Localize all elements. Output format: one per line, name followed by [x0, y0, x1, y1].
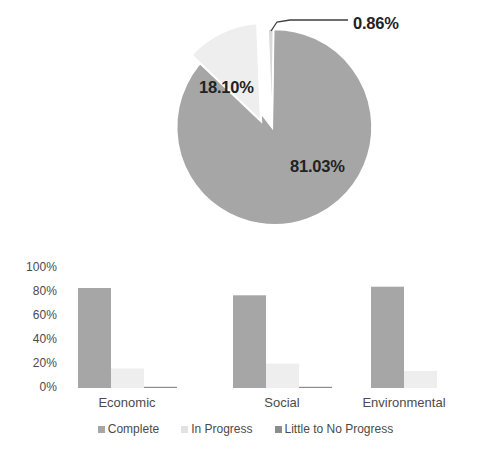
bar-social-little-to-no-progress	[299, 387, 332, 388]
bar-social-in-progress	[266, 364, 299, 388]
bar-environmental-in-progress	[404, 371, 437, 388]
legend-swatch-little-to-no-progress-icon	[275, 426, 282, 433]
pie-label-in-progress: 18.10%	[199, 78, 254, 97]
pie-chart-graphic	[0, 0, 491, 240]
legend-swatch-complete-icon	[98, 426, 105, 433]
x-axis-label-social: Social	[222, 395, 342, 410]
legend-item-little-to-no-progress: Little to No Progress	[275, 422, 394, 436]
legend-label-little-to-no-progress: Little to No Progress	[285, 422, 394, 436]
x-axis-label-economic: Economic	[67, 395, 187, 410]
pie-chart: 0.86% 18.10% 81.03%	[0, 0, 491, 240]
x-axis-label-environmental: Environmental	[344, 395, 464, 410]
bar-chart: 100% 80% 60% 40% 20% 0% Economic Social …	[0, 240, 491, 440]
legend-label-in-progress: In Progress	[191, 422, 252, 436]
bar-environmental-complete	[371, 287, 404, 388]
pie-label-complete: 81.03%	[290, 157, 345, 176]
legend-swatch-in-progress-icon	[181, 426, 188, 433]
bar-chart-legend: Complete In Progress Little to No Progre…	[0, 420, 491, 438]
bar-chart-plot-area	[0, 240, 491, 440]
bar-economic-in-progress	[111, 369, 144, 389]
bar-economic-complete	[78, 288, 111, 388]
bar-social-complete	[233, 295, 266, 388]
legend-item-in-progress: In Progress	[181, 422, 252, 436]
legend-item-complete: Complete	[98, 422, 159, 436]
legend-label-complete: Complete	[108, 422, 159, 436]
bar-economic-little-to-no-progress	[144, 387, 177, 388]
pie-slice-little-to-no-progress	[268, 29, 273, 127]
pie-label-little-to-no-progress: 0.86%	[353, 14, 399, 33]
